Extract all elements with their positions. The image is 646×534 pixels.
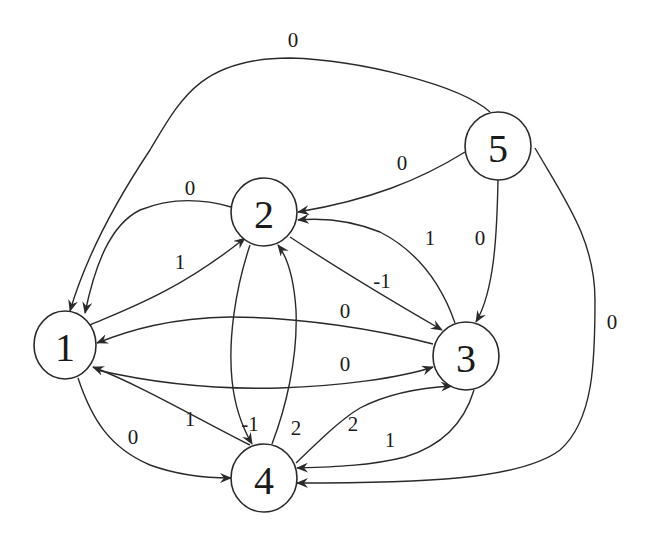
- edge-weight-label: 2: [291, 416, 302, 440]
- edge-2-to-1: [85, 201, 231, 313]
- node-label: 4: [254, 458, 274, 503]
- edge-5-to-2: [298, 152, 465, 212]
- edge-weight-label: 1: [185, 407, 196, 431]
- node-1: 1: [34, 311, 96, 379]
- node-4: 4: [231, 444, 297, 512]
- edge-weight-label: 0: [475, 226, 486, 250]
- nodes-layer: 12345: [34, 112, 531, 512]
- node-label: 3: [456, 336, 476, 381]
- edge-weight-label: 1: [385, 428, 396, 452]
- edge-weight-label: 0: [397, 151, 408, 175]
- graph-canvas: 0001-110001-120210 12345: [0, 0, 646, 534]
- node-label: 1: [55, 325, 75, 370]
- edge-2-to-3: [290, 237, 442, 330]
- edge-weight-label: 1: [425, 226, 436, 250]
- edge-weight-label: 0: [340, 299, 351, 323]
- edge-4-to-3: [296, 386, 452, 463]
- edge-weight-label: 2: [348, 412, 359, 436]
- graph-diagram: 0001-110001-120210 12345: [0, 0, 646, 534]
- edge-3-to-1: [97, 317, 433, 344]
- edge-labels-layer: 0001-110001-120210: [128, 28, 618, 452]
- edge-weight-label: 0: [288, 28, 299, 52]
- edge-4-to-1: [93, 367, 250, 445]
- node-label: 2: [254, 192, 274, 237]
- edge-1-to-3: [97, 367, 433, 388]
- node-2: 2: [231, 178, 297, 246]
- edge-4-to-2: [272, 245, 296, 444]
- edge-weight-label: -1: [241, 412, 259, 436]
- edge-weight-label: 1: [175, 250, 186, 274]
- edge-weight-label: 0: [128, 425, 139, 449]
- edge-weight-label: -1: [373, 269, 391, 293]
- edge-weight-label: 0: [607, 310, 618, 334]
- node-label: 5: [488, 126, 508, 171]
- edge-weight-label: 0: [185, 176, 196, 200]
- edge-weight-label: 0: [340, 352, 351, 376]
- edge-1-to-4: [78, 378, 231, 478]
- edge-5-to-3: [476, 180, 498, 322]
- edge-1-to-2: [90, 238, 245, 325]
- node-5: 5: [465, 112, 531, 180]
- node-3: 3: [433, 322, 499, 390]
